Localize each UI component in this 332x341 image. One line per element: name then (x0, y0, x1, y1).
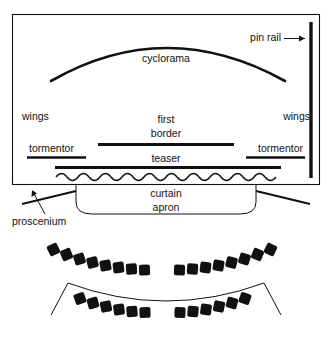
tormentor-left-label: tormentor (29, 142, 74, 154)
proscenium-arrow-icon (32, 190, 38, 197)
seat (59, 247, 73, 261)
curtain-wave-line (56, 174, 276, 181)
seat (139, 264, 150, 275)
seat (263, 242, 278, 257)
first-border-label-line2: border (151, 127, 182, 139)
proscenium-leader-line (33, 192, 45, 214)
seat (86, 296, 100, 310)
seat (99, 300, 112, 313)
seat (113, 303, 125, 315)
seat (199, 261, 211, 273)
seat (112, 261, 124, 273)
seat (86, 256, 99, 269)
seat-block-front-right (174, 242, 278, 276)
cyclorama-label: cyclorama (142, 52, 190, 64)
house-wall-right (264, 283, 281, 315)
apron-label: apron (153, 201, 180, 213)
house-wall-left (51, 283, 68, 315)
tormentor-right-label: tormentor (258, 142, 303, 154)
seat (139, 307, 150, 318)
proscenium-wall-right (256, 191, 310, 204)
seat (46, 242, 61, 257)
seating-row-front (46, 242, 278, 276)
stage-diagram-figure: pin rail cyclorama wings wings first bor… (0, 0, 332, 341)
seat (126, 263, 138, 275)
wings-right-label: wings (282, 110, 310, 122)
seat (99, 259, 112, 272)
proscenium-label: proscenium (12, 215, 67, 227)
seat (126, 306, 138, 318)
seat (250, 247, 264, 261)
seat-block-rear-right (174, 291, 252, 318)
theater-stage-diagram: pin rail cyclorama wings wings first bor… (0, 0, 332, 341)
seat (174, 264, 185, 275)
proscenium-wall-left (22, 191, 76, 204)
seat (73, 291, 87, 305)
seat (187, 306, 199, 318)
seat (225, 256, 238, 269)
seating-row-rear (73, 291, 252, 318)
seat (225, 296, 239, 310)
wings-left-label: wings (21, 110, 49, 122)
seat (73, 252, 87, 266)
seat (238, 252, 252, 266)
pin-rail-arrow-icon (299, 36, 305, 42)
first-border-label-line1: first (158, 113, 175, 125)
seat (238, 291, 252, 305)
curtain-label: curtain (150, 187, 182, 199)
teaser-label: teaser (151, 152, 181, 164)
pin-rail-label: pin rail (250, 31, 281, 43)
seat (187, 263, 199, 275)
seat (174, 307, 185, 318)
seat (212, 259, 225, 272)
seat-block-front-left (46, 242, 150, 276)
seat (200, 303, 212, 315)
seat (212, 300, 225, 313)
